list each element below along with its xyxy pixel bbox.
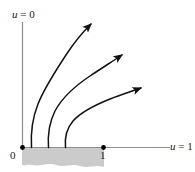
vertical-axis-equation: = 0 [20, 8, 34, 20]
tick-label-zero: 0 [10, 150, 16, 161]
characteristics-diagram: u = 0 u = 1 0 1 [0, 0, 195, 172]
vertical-axis-label: u = 0 [12, 9, 35, 20]
characteristic-curve-3 [65, 88, 141, 148]
horizontal-axis-equation: = 1 [178, 140, 192, 152]
shaded-band-group [22, 148, 104, 167]
diagram-canvas [0, 0, 195, 172]
horizontal-axis-variable: u [170, 140, 176, 152]
vertical-axis-variable: u [12, 8, 18, 20]
characteristic-curve-2 [48, 55, 122, 148]
characteristic-curve-1 [31, 24, 91, 148]
tick-label-one: 1 [100, 150, 106, 161]
horizontal-axis-label: u = 1 [170, 141, 193, 152]
origin-marker [20, 145, 25, 150]
shaded-band [22, 148, 104, 167]
